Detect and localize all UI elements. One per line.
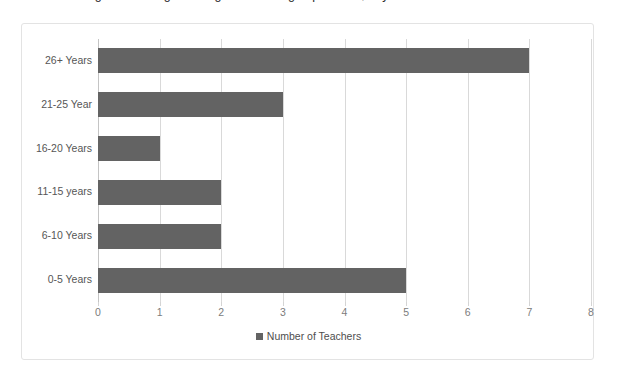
value-tick-label: 3	[280, 306, 286, 318]
value-tick-label: 6	[465, 306, 471, 318]
chart-legend: Number of Teachers	[22, 330, 595, 342]
clipped-caption: Figure showing the range of teaching exp…	[0, 0, 617, 12]
value-tick-label: 4	[342, 306, 348, 318]
value-tick-label: 7	[526, 306, 532, 318]
value-tick-label: 5	[403, 306, 409, 318]
chart-frame: 26+ Years21-25 Year16-20 Years11-15 year…	[21, 23, 594, 360]
value-tick-label: 2	[218, 306, 224, 318]
clipped-caption-text: Figure showing the range of teaching exp…	[84, 0, 414, 2]
legend-swatch-icon	[256, 333, 263, 340]
chart-plot-wrapper: 26+ Years21-25 Year16-20 Years11-15 year…	[22, 24, 595, 361]
value-tick-label: 1	[157, 306, 163, 318]
value-tick-label: 0	[95, 306, 101, 318]
value-tick-label: 8	[588, 306, 594, 318]
legend-label: Number of Teachers	[267, 330, 361, 342]
value-axis-labels: 012345678	[98, 306, 591, 322]
